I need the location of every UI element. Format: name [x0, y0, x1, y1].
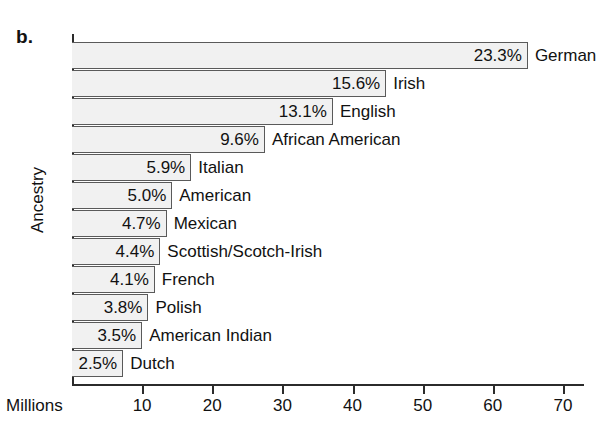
bar-value-label: 13.1%: [279, 103, 327, 120]
bar-row: 4.1%French: [72, 265, 584, 293]
bar-category-label: American: [172, 187, 251, 204]
bar-value-label: 4.1%: [110, 271, 149, 288]
bar-category-label: African American: [265, 131, 401, 148]
x-axis-tick-label: 50: [413, 396, 432, 416]
bar-row: 2.5%Dutch: [72, 349, 584, 377]
x-axis-tick-label: 30: [273, 396, 292, 416]
bar-value-label: 4.7%: [122, 215, 161, 232]
bar-value-label: 4.4%: [116, 243, 155, 260]
bar: 5.0%: [72, 182, 172, 209]
bar: 3.5%: [72, 322, 142, 349]
bar-row: 5.9%Italian: [72, 153, 584, 181]
bar-category-label: Dutch: [123, 355, 174, 372]
y-axis-title: Ancestry: [28, 140, 48, 260]
x-axis-tick-label: 20: [203, 396, 222, 416]
x-axis-tick: [423, 386, 425, 394]
bar-value-label: 5.9%: [146, 159, 185, 176]
x-axis-tick-label: 70: [553, 396, 572, 416]
bar-row: 23.3%German: [72, 41, 584, 69]
x-axis-tick: [282, 386, 284, 394]
x-axis-tick: [353, 386, 355, 394]
x-axis-tick-label: 40: [343, 396, 362, 416]
bar-row: 5.0%American: [72, 181, 584, 209]
bar: 4.7%: [72, 210, 167, 237]
bar: 5.9%: [72, 154, 191, 181]
bar-row: 4.4%Scottish/Scotch-Irish: [72, 237, 584, 265]
bar: 9.6%: [72, 126, 265, 153]
bar-row: 3.8%Polish: [72, 293, 584, 321]
bar-row: 9.6%African American: [72, 125, 584, 153]
bar-category-label: French: [155, 271, 215, 288]
bar-row: 13.1%English: [72, 97, 584, 125]
bar-value-label: 2.5%: [78, 355, 117, 372]
x-axis-title: Millions: [6, 396, 63, 416]
bar-category-label: Polish: [148, 299, 201, 316]
bar-value-label: 15.6%: [332, 75, 380, 92]
bar: 2.5%: [72, 350, 123, 377]
x-axis-tick: [563, 386, 565, 394]
bar-category-label: American Indian: [142, 327, 272, 344]
bar: 3.8%: [72, 294, 148, 321]
x-axis-tick: [142, 386, 144, 394]
bar: 13.1%: [72, 98, 333, 125]
bar-category-label: Irish: [386, 75, 425, 92]
bar-category-label: English: [333, 103, 396, 120]
bar: 4.4%: [72, 238, 160, 265]
bar-category-label: German: [528, 47, 596, 64]
bar-value-label: 3.5%: [97, 327, 136, 344]
bar-category-label: Italian: [191, 159, 243, 176]
bar: 23.3%: [72, 42, 528, 69]
plot-area: 23.3%German15.6%Irish13.1%English9.6%Afr…: [72, 34, 584, 384]
x-axis-line: [72, 384, 584, 386]
x-axis-tick-label: 60: [483, 396, 502, 416]
bar: 15.6%: [72, 70, 386, 97]
bar-row: 3.5%American Indian: [72, 321, 584, 349]
x-axis-tick-label: 10: [133, 396, 152, 416]
bar-category-label: Mexican: [167, 215, 237, 232]
bar-row: 4.7%Mexican: [72, 209, 584, 237]
bar-row: 15.6%Irish: [72, 69, 584, 97]
x-axis-tick: [493, 386, 495, 394]
bar-series: 23.3%German15.6%Irish13.1%English9.6%Afr…: [72, 41, 584, 377]
bar-value-label: 9.6%: [220, 131, 259, 148]
panel-label: b.: [16, 26, 33, 48]
bar: 4.1%: [72, 266, 155, 293]
bar-value-label: 23.3%: [474, 47, 522, 64]
bar-value-label: 3.8%: [104, 299, 143, 316]
x-axis-tick: [212, 386, 214, 394]
bar-value-label: 5.0%: [128, 187, 167, 204]
bar-category-label: Scottish/Scotch-Irish: [160, 243, 322, 260]
